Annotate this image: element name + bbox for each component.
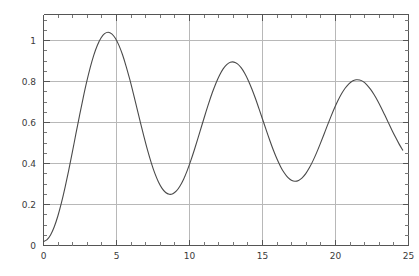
y-tick-label: 0.8 — [22, 77, 37, 87]
y-tick-label: 0.6 — [22, 118, 37, 128]
y-tick-label: 1 — [30, 36, 36, 46]
x-tick-label: 0 — [41, 251, 47, 261]
x-tick-label: 25 — [403, 251, 414, 261]
y-tick-label: 0.4 — [22, 159, 37, 169]
plot-root: 1 0.8 0.6 0.4 0.2 0 0 5 10 15 20 25 — [0, 0, 419, 276]
y-tick-label: 0 — [30, 241, 36, 251]
x-tick-label: 5 — [114, 251, 120, 261]
chart-canvas: 1 0.8 0.6 0.4 0.2 0 0 5 10 15 20 25 — [0, 0, 419, 276]
x-tick-label: 10 — [184, 251, 196, 261]
plot-background — [0, 0, 419, 276]
x-tick-label: 15 — [257, 251, 268, 261]
x-tick-label: 20 — [330, 251, 342, 261]
y-tick-label: 0.2 — [22, 200, 36, 210]
